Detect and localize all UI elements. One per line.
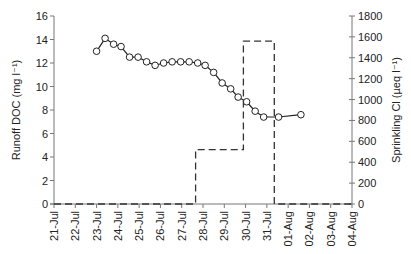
x-tick-label: 26-Jul — [154, 211, 166, 241]
x-tick-label: 29-Jul — [218, 211, 230, 241]
runoff-doc-point — [202, 62, 209, 69]
x-tick-label: 25-Jul — [133, 211, 145, 241]
runoff-doc-point — [298, 111, 305, 118]
y2-tick-label: 0 — [358, 198, 364, 210]
x-tick-label: 28-Jul — [197, 211, 209, 241]
y-tick-label: 0 — [42, 198, 48, 210]
runoff-doc-point — [252, 108, 259, 115]
y2-tick-label: 1000 — [358, 94, 382, 106]
axes: 0246810121416020040060080010001200140016… — [36, 10, 383, 246]
runoff-doc-point — [143, 59, 150, 66]
runoff-doc-point — [169, 59, 176, 66]
marks — [54, 35, 352, 204]
y2-tick-label: 1600 — [358, 31, 382, 43]
runoff-doc-point — [118, 43, 125, 50]
runoff-doc-point — [227, 86, 234, 93]
x-tick-label: 04-Aug — [346, 211, 358, 246]
x-tick-label: 03-Aug — [325, 211, 337, 246]
y-tick-label: 6 — [42, 128, 48, 140]
x-tick-label: 31-Jul — [261, 211, 273, 241]
runoff-doc-point — [177, 59, 184, 66]
runoff-doc-point — [219, 80, 226, 87]
runoff-doc-point — [235, 94, 242, 101]
y-tick-label: 8 — [42, 104, 48, 116]
runoff-doc-point — [275, 114, 282, 121]
runoff-doc-point — [135, 54, 142, 61]
runoff-doc-point — [126, 54, 133, 61]
runoff-doc-point — [243, 98, 250, 105]
runoff-doc-point — [160, 60, 167, 67]
x-tick-label: 21-Jul — [48, 211, 60, 241]
y-tick-label: 10 — [36, 81, 48, 93]
y-axis-label: Runoff DOC (mg l⁻¹) — [10, 60, 22, 161]
runoff-doc-line — [97, 38, 301, 117]
y2-tick-label: 1400 — [358, 52, 382, 64]
runoff-doc-point — [152, 62, 159, 69]
runoff-doc-point — [260, 114, 267, 121]
y-tick-label: 14 — [36, 34, 48, 46]
x-tick-label: 23-Jul — [91, 211, 103, 241]
runoff-doc-point — [210, 69, 217, 76]
y-tick-label: 4 — [42, 151, 48, 163]
y2-axis-label: Sprinkling Cl (µeq l⁻¹) — [390, 57, 402, 163]
y2-tick-label: 600 — [358, 135, 376, 147]
x-tick-label: 30-Jul — [240, 211, 252, 241]
chart: 0246810121416020040060080010001200140016… — [0, 0, 411, 254]
y2-tick-label: 800 — [358, 114, 376, 126]
x-tick-label: 22-Jul — [69, 211, 81, 241]
y-tick-label: 2 — [42, 175, 48, 187]
y2-tick-label: 200 — [358, 177, 376, 189]
x-tick-label: 01-Aug — [282, 211, 294, 246]
runoff-doc-point — [194, 60, 201, 67]
y2-tick-label: 400 — [358, 156, 376, 168]
y2-tick-label: 1800 — [358, 10, 382, 22]
y-tick-label: 12 — [36, 57, 48, 69]
runoff-doc-point — [110, 41, 117, 48]
y2-tick-label: 1200 — [358, 73, 382, 85]
x-tick-label: 27-Jul — [176, 211, 188, 241]
y-tick-label: 16 — [36, 10, 48, 22]
x-tick-label: 02-Aug — [303, 211, 315, 246]
runoff-doc-point — [186, 59, 193, 66]
runoff-doc-point — [102, 35, 109, 42]
runoff-doc-point — [93, 48, 100, 55]
x-tick-label: 24-Jul — [112, 211, 124, 241]
